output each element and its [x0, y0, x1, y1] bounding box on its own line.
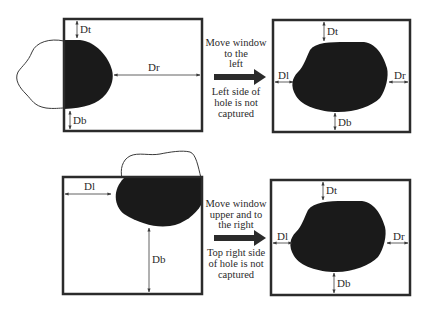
top-transition: Move window to the left Left side of hol…	[206, 37, 267, 119]
hole-fully-captured	[292, 42, 387, 112]
bottom-result-line-1: Top right side	[207, 247, 266, 258]
dr-label: Dr	[393, 230, 405, 242]
hole-outline-uncaptured	[121, 151, 201, 178]
top-result-line-3: captured	[218, 108, 255, 119]
hole-outline-uncaptured	[17, 40, 64, 108]
db-label: Db	[337, 277, 351, 289]
bottom-action-line-3: the right	[218, 219, 253, 230]
hole-fully-captured	[290, 201, 385, 272]
hole-captured-region	[64, 40, 113, 109]
db-label: Db	[73, 114, 87, 126]
hole-captured-region	[116, 178, 201, 227]
dr-label: Dr	[148, 61, 160, 73]
db-label: Db	[152, 253, 166, 265]
window-adjustment-diagram: Dt Db Dr Move window to the left Left si…	[0, 0, 427, 311]
right-arrow-icon	[214, 69, 266, 85]
dt-label: Dt	[327, 25, 338, 37]
dt-label: Dt	[326, 184, 337, 196]
dr-label: Dr	[394, 69, 406, 81]
top-result-line-1: Left side of	[212, 86, 261, 97]
bottom-result-line-2: of hole is not	[208, 258, 263, 269]
dt-label: Dt	[80, 23, 91, 35]
dl-label: Dl	[277, 230, 288, 242]
top-action-line-1: Move window	[206, 37, 267, 48]
bottom-before-panel: Dl Db	[63, 151, 202, 294]
right-arrow-icon	[214, 230, 266, 246]
bottom-after-panel: Dt Db Dl Dr	[271, 180, 410, 295]
top-after-panel: Dt Db Dl Dr	[273, 20, 410, 132]
dl-label: Dl	[84, 180, 95, 192]
bottom-transition: Move window upper and to the right Top r…	[206, 198, 267, 280]
bottom-action-line-1: Move window	[206, 198, 267, 209]
top-action-line-3: left	[229, 58, 243, 69]
db-label: Db	[338, 116, 352, 128]
top-before-panel: Dt Db Dr	[17, 19, 202, 131]
dl-label: Dl	[278, 69, 289, 81]
bottom-result-line-3: captured	[218, 269, 255, 280]
top-result-line-2: hole is not	[214, 97, 258, 108]
